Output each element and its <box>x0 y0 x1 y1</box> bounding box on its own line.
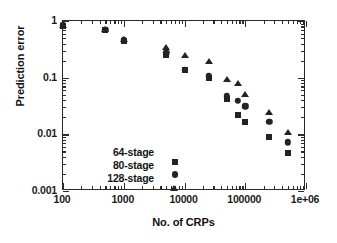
y-axis-major-tick <box>63 191 69 192</box>
data-point-circle <box>234 98 240 104</box>
data-point-triangle <box>265 109 273 115</box>
chart-figure: Prediction error 1001000100001000001e+06… <box>0 0 337 243</box>
data-point-triangle <box>181 52 189 58</box>
y-tick-label: 0.001 <box>32 184 57 196</box>
x-axis-top-tick <box>306 21 307 27</box>
legend-swatch-triangle <box>170 185 178 191</box>
x-tick-label: 100000 <box>227 193 261 205</box>
data-point-triangle <box>59 22 67 28</box>
y-tick-label: 0.1 <box>43 71 57 83</box>
data-point-triangle <box>284 129 292 135</box>
legend-label-2: 128-stage <box>107 172 154 185</box>
x-tick-label: 1e+06 <box>291 193 320 205</box>
legend-label-0: 64-stage <box>113 146 154 159</box>
x-tick-label: 1000 <box>111 193 134 205</box>
x-axis-major-tick <box>306 183 307 189</box>
legend-label-1: 80-stage <box>113 159 154 172</box>
data-point-square <box>235 112 241 118</box>
data-point-square <box>266 134 272 140</box>
legend-item-2: 128-stage <box>88 172 180 185</box>
data-point-triangle <box>101 26 109 32</box>
data-point-circle <box>285 139 291 145</box>
y-axis-title: Prediction error <box>14 1 26 131</box>
y-axis-right-tick <box>298 191 304 192</box>
data-point-triangle <box>205 58 213 64</box>
data-point-square <box>242 119 248 125</box>
chart-legend: 64-stage 80-stage 128-stage <box>88 146 180 185</box>
data-point-triangle <box>120 36 128 42</box>
data-point-circle <box>266 119 272 125</box>
legend-item-1: 80-stage <box>88 159 180 172</box>
data-point-triangle <box>162 44 170 50</box>
data-point-triangle <box>241 91 249 97</box>
data-point-circle <box>242 103 248 109</box>
y-tick-label: 0.01 <box>37 127 57 139</box>
data-point-triangle <box>234 80 242 86</box>
data-point-square <box>285 150 291 156</box>
x-tick-label: 10000 <box>169 193 197 205</box>
y-tick-label: 1 <box>51 14 57 26</box>
x-axis-title: No. of CRPs <box>62 216 305 228</box>
data-point-triangle <box>223 76 231 82</box>
legend-marker-triangle <box>170 179 178 192</box>
legend-item-0: 64-stage <box>88 146 180 159</box>
